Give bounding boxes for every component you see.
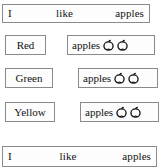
sentence-box-bottom[interactable]: I like apples [2,146,157,167]
apple-icon-group-red [102,39,129,52]
apple-icon [102,39,115,52]
color-label-green-text: Green [16,73,43,84]
apple-phrase-red-text: apples [72,40,100,51]
worksheet-sheet: I like apples Red apples [0,0,163,167]
color-label-red-text: Red [17,40,35,51]
color-label-yellow[interactable]: Yellow [5,102,55,122]
sentence-word-like: like [56,8,73,19]
sentence-word-apples: apples [115,8,144,19]
apple-icon [115,106,128,119]
sentence-word-i: I [8,151,12,162]
apple-icon [113,72,126,85]
apple-phrase-green-text: apples [83,73,111,84]
sentence-word-apples: apples [122,151,151,162]
apple-phrase-green[interactable]: apples [78,68,158,88]
apple-phrase-yellow[interactable]: apples [80,102,159,122]
apple-icon [116,39,129,52]
apple-icon-group-green [113,72,140,85]
sentence-word-i: I [8,8,12,19]
color-label-red[interactable]: Red [5,35,46,55]
apple-phrase-red[interactable]: apples [67,35,155,55]
apple-icon [127,72,140,85]
apple-icon [129,106,142,119]
sentence-word-like: like [60,151,77,162]
color-label-yellow-text: Yellow [14,107,45,118]
sentence-box-top[interactable]: I like apples [2,4,150,23]
color-label-green[interactable]: Green [5,68,53,88]
apple-icon-group-yellow [115,106,142,119]
apple-phrase-yellow-text: apples [85,107,113,118]
